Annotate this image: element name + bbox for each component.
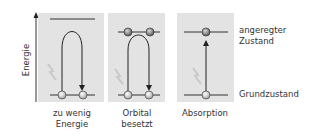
ground-state-label: Grundzustand xyxy=(239,89,299,100)
caption-line: Energie xyxy=(40,119,104,130)
panel-caption-orbital-occupied: Orbital besetzt xyxy=(108,108,166,130)
electron-icon xyxy=(124,28,132,36)
electron-icon xyxy=(202,28,210,36)
energy-level-diagram: Energie zu wenig Energie Orbital besetzt… xyxy=(0,0,310,138)
panel-caption-absorption: Absorption xyxy=(172,108,238,119)
panel-insufficient-energy xyxy=(38,13,104,102)
electron-icon xyxy=(146,28,154,36)
state-label-line: angeregter xyxy=(239,25,286,36)
electron-icon xyxy=(79,91,87,99)
energy-axis xyxy=(34,12,39,102)
electron-icon xyxy=(124,91,132,99)
electron-icon xyxy=(145,91,153,99)
caption-line: Absorption xyxy=(172,108,238,119)
caption-line: zu wenig xyxy=(40,108,104,119)
panel-orbital-occupied xyxy=(108,13,165,102)
caption-line: Orbital xyxy=(108,108,166,119)
panel-absorption xyxy=(177,13,234,102)
electron-icon xyxy=(202,91,210,99)
state-label-line: Zustand xyxy=(239,36,286,47)
excited-state-label: angeregter Zustand xyxy=(239,25,286,47)
energy-axis-label: Energie xyxy=(21,40,31,80)
panel-caption-insufficient-energy: zu wenig Energie xyxy=(40,108,104,130)
caption-line: besetzt xyxy=(108,119,166,130)
electron-icon xyxy=(58,91,66,99)
axis-arrow-icon xyxy=(34,12,39,18)
